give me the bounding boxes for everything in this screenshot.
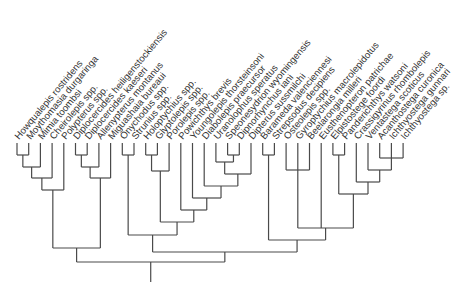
taxon-labels: Howqualepis rostridensMoythomasia durgar…: [12, 27, 451, 142]
cladogram: Howqualepis rostridensMoythomasia durgar…: [0, 0, 451, 295]
tree-branches: [17, 143, 403, 282]
